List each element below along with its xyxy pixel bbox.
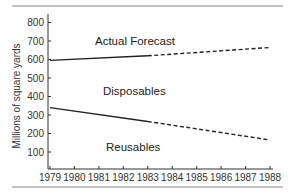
reusables-label: Reusables [106, 141, 161, 153]
x-tick-label: 1983 [137, 172, 160, 183]
x-tick-label: 1981 [88, 172, 111, 183]
x-tick-label: 1979 [39, 172, 62, 183]
y-tick-label: 800 [27, 17, 44, 28]
x-tick-label: 1980 [63, 172, 86, 183]
x-tick-label: 1985 [186, 172, 209, 183]
line-chart: 1002003004005006007008001979198019811982… [0, 0, 293, 194]
x-tick-label: 1986 [210, 172, 233, 183]
reusables-actual-line [50, 108, 148, 122]
actual-forecast-label: Actual Forecast [95, 35, 176, 47]
y-tick-label: 600 [27, 54, 44, 65]
y-tick-label: 100 [27, 147, 44, 158]
x-tick-label: 1988 [259, 172, 282, 183]
y-axis-label: Millions of square yards [11, 43, 22, 148]
x-tick-label: 1984 [161, 172, 184, 183]
x-tick-label: 1982 [112, 172, 135, 183]
y-tick-label: 200 [27, 128, 44, 139]
y-tick-label: 500 [27, 73, 44, 84]
x-tick-label: 1987 [234, 172, 257, 183]
disposables-forecast-line [148, 47, 270, 55]
reusables-forecast-line [148, 121, 270, 140]
y-tick-label: 700 [27, 36, 44, 47]
disposables-label: Disposables [103, 85, 166, 97]
y-tick-label: 300 [27, 110, 44, 121]
disposables-actual-line [50, 56, 148, 61]
y-tick-label: 400 [27, 91, 44, 102]
